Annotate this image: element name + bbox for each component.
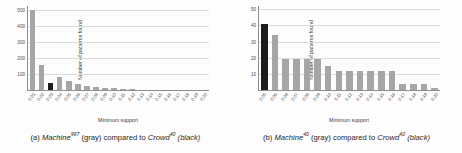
x-tick-label: 0.04 [54, 92, 63, 102]
panel-caption-b: (b) Machine40 (gray) compared to Crowd40… [231, 131, 462, 142]
bar-slot [408, 6, 419, 90]
y-tick-label: 10 [251, 71, 256, 76]
bar-series-a [28, 6, 209, 90]
y-tick-label: 200 [17, 56, 25, 61]
bar [304, 59, 311, 90]
x-tick-slot: 0.14 [145, 91, 154, 117]
x-tick-slot: 0.03 [45, 91, 54, 117]
x-tick-slot: 0.13 [354, 91, 365, 117]
chart-panel-a: Number of patterns found 500 400 300 200… [0, 0, 231, 153]
x-tick-slot: 0.18 [182, 91, 191, 117]
figure-sheet: Number of patterns found 500 400 300 200… [0, 0, 462, 153]
x-axis-ticklabels-a: 0.010.020.030.040.050.060.070.080.090.10… [27, 91, 209, 117]
x-tick-label: 0.07 [81, 92, 90, 102]
x-tick-slot: 0.17 [397, 91, 408, 117]
bar-slot [118, 6, 127, 90]
x-tick-slot: 0.15 [154, 91, 163, 117]
x-tick-label: 0.17 [172, 92, 181, 102]
x-tick-slot: 0.09 [312, 91, 323, 117]
x-tick-slot: 0.16 [386, 91, 397, 117]
bar [30, 10, 36, 90]
x-tick-label: 0.20 [430, 92, 439, 102]
bar-slot [146, 6, 155, 90]
caption-black-tail: (black) [407, 133, 430, 142]
caption-black-tail: (black) [178, 133, 201, 142]
caption-prefix: (b) [263, 133, 272, 142]
bar-highlight [261, 24, 268, 90]
x-tick-label: 0.17 [398, 92, 407, 102]
caption-gray-series: Machine [274, 133, 303, 142]
x-tick-label: 0.14 [365, 92, 374, 102]
bar-slot [200, 6, 209, 90]
bar-slot [82, 6, 91, 90]
bar [357, 71, 364, 90]
x-tick-label: 0.15 [154, 92, 163, 102]
caption-prefix: (a) [31, 133, 40, 142]
x-tick-slot: 0.07 [290, 91, 301, 117]
x-tick-slot: 0.19 [191, 91, 200, 117]
bar-slot [46, 6, 55, 90]
bar-slot [64, 6, 73, 90]
x-tick-slot: 0.11 [333, 91, 344, 117]
x-tick-label: 0.10 [108, 92, 117, 102]
x-tick-label: 0.16 [163, 92, 172, 102]
x-tick-label: 0.15 [376, 92, 385, 102]
x-tick-slot: 0.12 [344, 91, 355, 117]
bar-slot [280, 6, 291, 90]
x-tick-slot: 0.17 [173, 91, 182, 117]
x-tick-slot: 0.01 [27, 91, 36, 117]
bar-slot [37, 6, 46, 90]
x-tick-label: 0.08 [280, 92, 289, 102]
bar-slot [137, 6, 146, 90]
bar [57, 77, 63, 90]
caption-gray-tail: (gray) compared to [311, 133, 375, 142]
bar-slot [173, 6, 182, 90]
bar-slot [100, 6, 109, 90]
x-tick-slot: 0.13 [136, 91, 145, 117]
x-tick-label: 0.05 [63, 92, 72, 102]
x-tick-label: 0.09 [312, 92, 321, 102]
bar-slot [365, 6, 376, 90]
x-tick-label: 0.12 [127, 92, 136, 102]
x-tick-label: 0.06 [269, 92, 278, 102]
x-tick-label: 0.01 [27, 92, 36, 102]
x-tick-label: 0.19 [419, 92, 428, 102]
x-tick-label: 0.11 [334, 92, 343, 102]
x-tick-label: 0.11 [118, 92, 127, 102]
x-tick-label: 0.19 [190, 92, 199, 102]
x-tick-label: 0.13 [355, 92, 364, 102]
x-tick-label: 0.16 [387, 92, 396, 102]
x-tick-slot: 0.08 [279, 91, 290, 117]
bar-slot [270, 6, 281, 90]
x-tick-label: 0.06 [72, 92, 81, 102]
bar-slot [312, 6, 323, 90]
bar [293, 59, 300, 90]
caption-gray-superscript: 997 [71, 131, 80, 137]
bar [378, 71, 385, 90]
bar-slot [419, 6, 430, 90]
bar [389, 71, 396, 90]
bar-slot [91, 6, 100, 90]
bar [325, 66, 332, 90]
x-axis-title-b: Minimum support [258, 117, 440, 123]
x-tick-slot: 0.09 [100, 91, 109, 117]
x-tick-label: 0.08 [90, 92, 99, 102]
x-tick-slot: 0.14 [365, 91, 376, 117]
x-tick-slot: 0.06 [72, 91, 81, 117]
caption-gray-superscript: 40 [303, 131, 309, 137]
bar-slot [182, 6, 191, 90]
x-tick-slot: 0.10 [322, 91, 333, 117]
caption-black-superscript: 40 [170, 131, 176, 137]
x-tick-label: 0.18 [408, 92, 417, 102]
bar [66, 81, 72, 90]
bar-highlight [48, 83, 54, 90]
bar [282, 59, 289, 90]
x-tick-slot: 0.10 [109, 91, 118, 117]
bar [314, 59, 321, 90]
bar-slot [191, 6, 200, 90]
bar-slot [302, 6, 313, 90]
bar-slot [28, 6, 37, 90]
x-tick-label: 0.02 [36, 92, 45, 102]
caption-black-series: Crowd [377, 133, 399, 142]
panel-caption-a: (a) Machine997 (gray) compared to Crowd4… [0, 131, 231, 142]
